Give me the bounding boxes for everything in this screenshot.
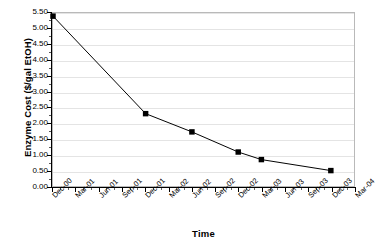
x-axis-tick-label: Sep-03 bbox=[307, 177, 330, 200]
x-axis-tick-label: Jun-01 bbox=[98, 178, 120, 200]
x-axis-tick-label: Dec-03 bbox=[331, 177, 354, 200]
x-axis-tick-label: Jun-03 bbox=[284, 178, 306, 200]
x-axis-tick-label: Mar-04 bbox=[354, 177, 376, 199]
x-axis-tick-label: Dec-01 bbox=[144, 177, 167, 200]
x-axis-tick-label: Mar-03 bbox=[261, 177, 283, 199]
x-axis-tick-label: Jun-02 bbox=[191, 178, 213, 200]
x-axis-tick-label: Mar-02 bbox=[168, 177, 190, 199]
x-axis-tick-label: Dec-00 bbox=[51, 177, 74, 200]
x-axis-tick-label: Dec-02 bbox=[237, 177, 260, 200]
x-axis-tick-label: Sep-02 bbox=[214, 177, 237, 200]
x-axis-title: Time bbox=[52, 228, 355, 239]
x-axis-tick-label: Mar-01 bbox=[74, 177, 96, 199]
x-axis-tick-label: Sep-01 bbox=[121, 177, 144, 200]
